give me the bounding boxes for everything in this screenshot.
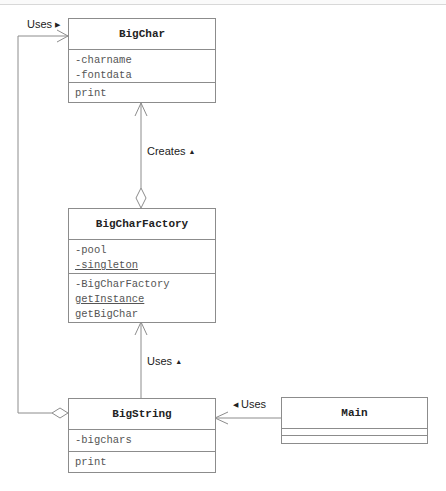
operation: print — [75, 455, 215, 470]
class-name: BigCharFactory — [69, 209, 215, 240]
attributes-section: -pool -singleton — [69, 240, 215, 274]
attribute: -bigchars — [75, 433, 215, 448]
attributes-section: -charname -fontdata — [69, 50, 215, 83]
attribute: -pool — [75, 243, 215, 258]
class-bigstring[interactable]: BigString -bigchars print — [68, 398, 216, 473]
class-name: Main — [282, 398, 427, 429]
string-aggregation-diamond-icon — [52, 408, 68, 418]
operations-section — [282, 436, 427, 443]
string-uses-char-line — [18, 36, 68, 413]
operations-section: print — [69, 83, 215, 103]
creates-aggregation-diamond-icon — [136, 188, 146, 208]
creates-label: Creates ▲ — [147, 145, 196, 157]
class-name: BigChar — [69, 19, 215, 50]
operations-section: -BigCharFactory getInstance getBigChar — [69, 274, 215, 324]
attribute: -fontdata — [75, 68, 215, 83]
direction-left-icon: ◀ — [233, 401, 238, 408]
class-main[interactable]: Main — [281, 397, 428, 444]
operation: getBigChar — [75, 307, 215, 322]
static-attribute: -singleton — [75, 258, 215, 273]
class-bigchar[interactable]: BigChar -charname -fontdata print — [68, 18, 216, 103]
factory-uses-label: Uses ▲ — [147, 355, 182, 367]
class-bigcharfactory[interactable]: BigCharFactory -pool -singleton -BigChar… — [68, 208, 216, 323]
class-name: BigString — [69, 399, 215, 430]
operations-section: print — [69, 452, 215, 472]
static-operation: getInstance — [75, 292, 215, 307]
attributes-section: -bigchars — [69, 430, 215, 452]
attribute: -charname — [75, 53, 215, 68]
operation: print — [75, 86, 215, 101]
string-uses-char-label: Uses ▶ — [27, 18, 60, 30]
direction-up-icon: ▲ — [175, 358, 182, 365]
operation: -BigCharFactory — [75, 277, 215, 292]
main-uses-label: ◀ Uses — [233, 398, 266, 410]
direction-up-icon: ▲ — [189, 148, 196, 155]
attributes-section — [282, 429, 427, 436]
direction-right-icon: ▶ — [55, 21, 60, 28]
